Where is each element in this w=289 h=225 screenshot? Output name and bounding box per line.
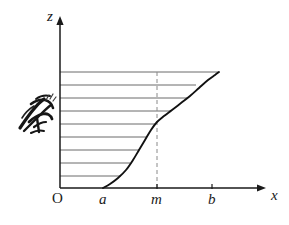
- tick-labels-group: amb: [99, 191, 216, 207]
- plot-svg: z x O amb: [0, 0, 289, 225]
- z-axis-label: z: [46, 8, 53, 24]
- tick-label-b: b: [208, 191, 216, 207]
- handwritten-ink-scribble: [20, 94, 56, 133]
- x-axis-label: x: [270, 187, 278, 203]
- hatch-lines-group: [60, 72, 219, 176]
- figure-container: z x O amb: [0, 0, 289, 225]
- origin-label: O: [52, 190, 63, 206]
- tick-label-a: a: [99, 191, 107, 207]
- tick-label-m: m: [151, 191, 162, 207]
- z-axis-arrowhead: [56, 16, 63, 25]
- x-axis-arrowhead: [257, 184, 266, 191]
- cumulative-ogive-curve: [103, 72, 219, 188]
